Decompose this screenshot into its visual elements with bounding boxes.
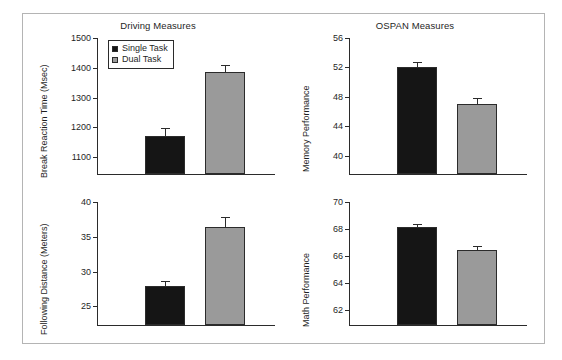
bar-dual-task <box>205 227 245 325</box>
y-tick-mark <box>345 67 349 68</box>
y-tick-mark <box>345 97 349 98</box>
y-tick-mark <box>93 157 97 158</box>
y-tick-mark <box>345 283 349 284</box>
bar-single-task <box>397 227 437 325</box>
x-axis-line <box>349 325 527 326</box>
error-bar-cap <box>413 224 422 225</box>
error-bar-cap <box>221 217 230 218</box>
y-tick-label: 40 <box>81 198 91 207</box>
y-tick-label: 56 <box>333 34 343 43</box>
legend-item-dual-task: Dual Task <box>112 54 168 65</box>
legend-swatch-single-task-icon <box>112 46 118 52</box>
y-tick-label: 1400 <box>71 63 91 72</box>
y-tick-mark <box>345 38 349 39</box>
figure-frame: Driving Measures Break Reaction Time (Ms… <box>22 13 545 344</box>
x-axis-line <box>97 174 275 175</box>
y-tick-label: 25 <box>81 302 91 311</box>
error-bar-cap <box>161 281 170 282</box>
panel-driving-measures-reaction-time: Driving Measures Break Reaction Time (Ms… <box>33 20 283 185</box>
panel-title: Driving Measures <box>33 20 283 31</box>
error-bar-cap <box>473 98 482 99</box>
error-bar <box>225 217 226 229</box>
y-tick-label: 35 <box>81 232 91 241</box>
panel-driving-measures-following-distance: Following Distance (Meters) 25303540 <box>33 192 283 342</box>
error-bar <box>165 128 166 137</box>
legend-label: Single Task <box>122 43 168 54</box>
y-tick-mark <box>345 310 349 311</box>
y-tick-mark <box>345 229 349 230</box>
x-axis-line <box>349 174 527 175</box>
y-tick-label: 48 <box>333 92 343 101</box>
error-bar-cap <box>161 128 170 129</box>
y-axis-label: Following Distance (Meters) <box>39 223 49 335</box>
y-tick-label: 62 <box>333 305 343 314</box>
y-tick-label: 40 <box>333 151 343 160</box>
y-tick-mark <box>93 237 97 238</box>
plot-area: 4044485256 <box>349 38 527 175</box>
bar-dual-task <box>457 250 497 325</box>
y-tick-mark <box>93 306 97 307</box>
legend-label: Dual Task <box>122 54 161 65</box>
y-axis-label: Break Reaction Time (Msec) <box>39 64 49 178</box>
bar-single-task <box>145 136 185 174</box>
panel-title: OSPAN Measures <box>295 20 535 31</box>
y-tick-mark <box>93 202 97 203</box>
error-bar-cap <box>413 62 422 63</box>
y-tick-mark <box>93 272 97 273</box>
y-tick-label: 1100 <box>72 153 91 162</box>
y-tick-label: 1500 <box>71 34 91 43</box>
panel-ospan-measures-memory-performance: OSPAN Measures Memory Performance 404448… <box>295 20 535 185</box>
y-tick-mark <box>345 256 349 257</box>
y-axis-line <box>97 202 98 326</box>
y-tick-mark <box>345 156 349 157</box>
bar-single-task <box>397 67 437 174</box>
y-axis-label: Math Performance <box>301 253 311 327</box>
y-tick-label: 30 <box>81 267 91 276</box>
y-axis-line <box>97 38 98 175</box>
legend: Single Task Dual Task <box>108 40 174 69</box>
y-tick-label: 1300 <box>71 93 91 102</box>
y-axis-line <box>349 38 350 175</box>
y-tick-mark <box>93 68 97 69</box>
plot-area: 6264666870 <box>349 202 527 326</box>
y-tick-label: 64 <box>333 278 343 287</box>
legend-item-single-task: Single Task <box>112 43 168 54</box>
y-tick-label: 68 <box>333 224 343 233</box>
y-tick-mark <box>345 126 349 127</box>
y-tick-label: 66 <box>333 251 343 260</box>
panel-ospan-measures-math-performance: Math Performance 6264666870 <box>295 192 535 342</box>
y-tick-mark <box>345 202 349 203</box>
y-tick-mark <box>93 38 97 39</box>
y-axis-label: Memory Performance <box>301 85 311 172</box>
y-axis-line <box>349 202 350 326</box>
x-axis-line <box>97 325 275 326</box>
error-bar <box>225 65 226 73</box>
error-bar-cap <box>221 65 230 66</box>
bar-dual-task <box>457 104 497 174</box>
error-bar-cap <box>473 246 482 247</box>
bar-single-task <box>145 286 185 325</box>
y-tick-label: 52 <box>333 63 343 72</box>
y-tick-mark <box>93 98 97 99</box>
y-tick-mark <box>93 127 97 128</box>
legend-swatch-dual-task-icon <box>112 57 118 63</box>
bar-dual-task <box>205 72 245 174</box>
plot-area: 25303540 <box>97 202 275 326</box>
y-tick-label: 70 <box>333 198 343 207</box>
y-tick-label: 1200 <box>71 123 91 132</box>
y-tick-label: 44 <box>333 122 343 131</box>
